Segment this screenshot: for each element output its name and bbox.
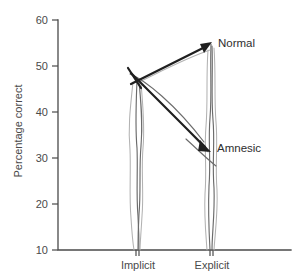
explicit-sketch-strokes — [205, 44, 217, 250]
y-tick-label-10: 10 — [36, 244, 48, 256]
normal-arrow-shaft — [131, 46, 207, 84]
axis-lines — [58, 20, 291, 250]
y-tick-label-20: 20 — [36, 198, 48, 210]
normal-sketch-connector — [139, 50, 210, 82]
y-tick-label-30: 30 — [36, 152, 48, 164]
implicit-stroke-1 — [129, 82, 134, 250]
x-axis-ticks — [136, 250, 213, 256]
y-axis-ticks — [52, 20, 58, 250]
series-label-amnesic: Amnesic — [217, 142, 261, 154]
normal-trend-arrow — [131, 42, 212, 84]
implicit-sketch-strokes — [129, 80, 144, 250]
series-label-normal: Normal — [218, 37, 255, 49]
explicit-stroke-4 — [212, 46, 214, 250]
y-axis-tick-labels: 60 50 40 30 20 10 — [36, 14, 48, 256]
y-tick-label-40: 40 — [36, 106, 48, 118]
y-tick-label-50: 50 — [36, 60, 48, 72]
chart-container: Percentage correct 60 50 40 30 20 10 — [0, 0, 302, 280]
x-tick-label-explicit: Explicit — [195, 259, 230, 271]
y-axis-title: Percentage correct — [12, 85, 24, 178]
y-tick-label-60: 60 — [36, 14, 48, 26]
x-tick-label-implicit: Implicit — [121, 259, 155, 271]
percentage-correct-line-chart: Percentage correct 60 50 40 30 20 10 — [0, 0, 302, 280]
x-axis-tick-labels: Implicit Explicit — [121, 259, 230, 271]
explicit-stroke-1 — [209, 44, 211, 250]
